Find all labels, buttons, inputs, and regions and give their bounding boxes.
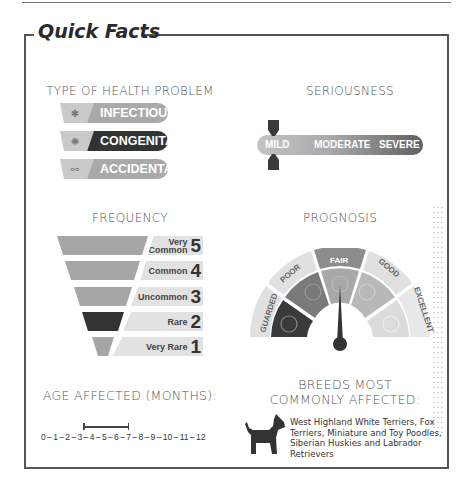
frame-top-right — [144, 34, 449, 36]
frequency-level-2: Rare 2 — [123, 312, 203, 331]
frequency-heading: FREQUENCY — [60, 211, 200, 225]
dog-icon — [243, 414, 288, 459]
frequency-label: Common — [148, 267, 187, 275]
age-range-marker — [83, 426, 129, 428]
frame-top-left — [24, 34, 34, 36]
health-type-label: ACCIDENTAL — [100, 162, 180, 176]
prognosis-gauge: GUARDED POOR FAIR GOOD EXCELLENT — [245, 248, 435, 358]
health-type-infectious: ✱ INFECTIOUS — [72, 103, 168, 123]
frequency-number: 2 — [190, 312, 201, 331]
prognosis-heading: PROGNOSIS — [270, 211, 410, 225]
frequency-number: 4 — [190, 261, 201, 280]
health-type-label: INFECTIOUS — [100, 106, 176, 120]
seriousness-moderate: MODERATE — [314, 139, 370, 150]
frequency-label: Rare — [167, 318, 187, 326]
age-scale: 0 – 1 – 2 – 3 – 4 – 5 – 6 – 7 – 8 – 9 – … — [41, 432, 205, 442]
health-type-accidental: ⚯ ACCIDENTAL — [72, 159, 168, 179]
prognosis-fair: FAIR — [330, 256, 348, 265]
frequency-number: 1 — [190, 337, 201, 356]
top-rule — [22, 2, 451, 3]
health-type-congenital: ✺ CONGENITAL — [72, 131, 168, 151]
breeds-list: West Highland White Terriers, Fox Terrie… — [290, 417, 450, 459]
frequency-label: Uncommon — [138, 293, 188, 301]
frequency-level-3: Uncommon 3 — [131, 287, 203, 306]
frequency-level-5: VeryCommon 5 — [148, 236, 203, 255]
health-problem-heading: TYPE OF HEALTH PROBLEM — [40, 84, 220, 98]
seriousness-heading: SERIOUSNESS — [280, 84, 420, 98]
brain-icon: ✺ — [60, 131, 94, 151]
frequency-number: 5 — [190, 236, 201, 255]
frequency-level-4: Common 4 — [140, 261, 203, 280]
texture-speckle — [432, 205, 444, 435]
virus-icon: ✱ — [60, 103, 94, 123]
seriousness-severe: SEVERE — [379, 139, 420, 150]
age-heading: AGE AFFECTED (MONTHS): — [30, 388, 230, 403]
frequency-level-1: Very Rare 1 — [113, 337, 203, 356]
bone-icon: ⚯ — [60, 159, 94, 179]
breeds-heading: BREEDS MOSTCOMMONLY AFFECTED: — [260, 377, 430, 407]
frequency-label: Very Rare — [146, 343, 188, 351]
seriousness-bar: MILD MODERATE SEVERE — [257, 135, 423, 155]
seriousness-marker — [267, 120, 280, 170]
frequency-number: 3 — [190, 287, 201, 306]
page-title: Quick Facts — [38, 20, 160, 42]
health-type-label: CONGENITAL — [100, 134, 182, 148]
